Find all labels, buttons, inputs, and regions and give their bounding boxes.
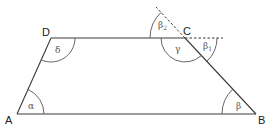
- angle-label-beta1: β1: [203, 41, 212, 52]
- angle-arc-beta: [222, 89, 233, 114]
- trapezoid-diagram: A B C D α δ γ β β1 β2: [0, 0, 272, 127]
- vertex-label-c: C: [183, 25, 191, 37]
- angle-label-beta2-sub: 2: [163, 24, 167, 31]
- vertex-label-a: A: [5, 114, 13, 126]
- angle-label-beta1-sub: 1: [208, 45, 212, 52]
- vertex-label-d: D: [42, 26, 50, 38]
- angle-label-gamma: γ: [175, 44, 180, 54]
- angle-label-beta2: β2: [158, 20, 167, 31]
- vertex-label-b: B: [258, 114, 265, 126]
- side-bc: [185, 38, 256, 114]
- angle-label-delta: δ: [55, 45, 60, 55]
- angle-label-alpha: α: [28, 101, 34, 111]
- angle-label-beta: β: [236, 101, 241, 111]
- angle-arc-gamma: [161, 38, 201, 62]
